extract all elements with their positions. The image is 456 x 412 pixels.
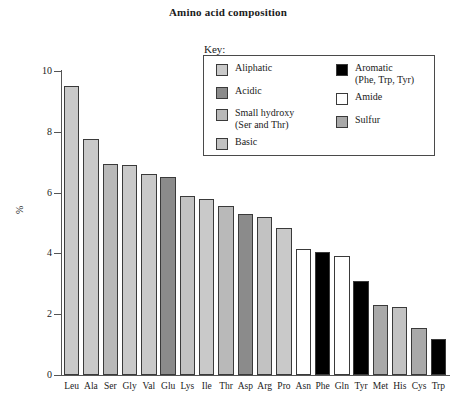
- x-axis-tick-label: Ile: [197, 381, 216, 391]
- x-axis-tick-label: Pro: [274, 381, 293, 391]
- y-axis-tick-label: 6: [12, 188, 52, 198]
- y-axis-tick: [54, 253, 61, 254]
- legend-label: Acidic: [235, 85, 262, 97]
- x-axis-tick-label: Cys: [409, 381, 428, 391]
- legend-swatch-icon: [216, 87, 228, 99]
- legend-label: Aromatic (Phe, Trp, Tyr): [355, 62, 414, 85]
- x-axis-tick-labels: LeuAlaSerGlyValGluLysIleThrAspArgProAsnP…: [62, 381, 452, 401]
- bar-ser: [103, 164, 118, 375]
- x-axis-tick-label: Gly: [120, 381, 139, 391]
- bar-ile: [199, 199, 214, 375]
- legend-label: Aliphatic: [235, 62, 272, 74]
- legend-swatch-icon: [216, 109, 228, 121]
- y-axis-tick-label: 8: [12, 127, 52, 137]
- bar-gly: [122, 165, 137, 375]
- legend-swatch-icon: [216, 138, 228, 150]
- legend-swatch-icon: [336, 93, 348, 105]
- x-axis-tick-label: Val: [139, 381, 158, 391]
- bar-tyr: [353, 281, 368, 375]
- x-axis-tick-label: Gln: [332, 381, 351, 391]
- x-axis-tick-label: Phe: [313, 381, 332, 391]
- x-axis-tick-label: His: [390, 381, 409, 391]
- x-axis-tick-label: Thr: [216, 381, 235, 391]
- x-axis-tick-label: Met: [371, 381, 390, 391]
- bar-thr: [218, 206, 233, 375]
- y-axis-tick: [54, 132, 61, 133]
- y-axis-tick-label: 4: [12, 248, 52, 258]
- x-axis-tick-label: Ser: [101, 381, 120, 391]
- legend-label: Amide: [355, 91, 382, 103]
- legend-swatch-icon: [336, 64, 348, 76]
- x-axis-tick-label: Trp: [429, 381, 448, 391]
- x-axis-tick-label: Glu: [159, 381, 178, 391]
- bar-pro: [276, 228, 291, 375]
- bar-trp: [431, 339, 446, 375]
- bar-lys: [180, 196, 195, 375]
- page-title: Amino acid composition: [0, 6, 456, 18]
- y-axis-tick: [54, 193, 61, 194]
- legend-label: Basic: [235, 136, 257, 148]
- bar-met: [373, 305, 388, 375]
- x-axis-tick-label: Ala: [81, 381, 100, 391]
- bar-asp: [238, 214, 253, 375]
- bar-his: [392, 307, 407, 375]
- bar-arg: [257, 217, 272, 375]
- x-axis-tick-label: Tyr: [352, 381, 371, 391]
- y-axis-tick: [54, 375, 61, 376]
- legend-swatch-icon: [216, 64, 228, 76]
- bar-glu: [160, 177, 175, 375]
- legend-box: AliphaticAcidicSmall hydroxy (Ser and Th…: [203, 55, 435, 156]
- bar-cys: [411, 328, 426, 375]
- x-axis-line: [61, 375, 450, 376]
- y-axis-tick-label: 0: [12, 370, 52, 380]
- bar-val: [141, 174, 156, 375]
- legend-key-label: Key:: [204, 43, 225, 55]
- y-axis-title: %: [14, 206, 25, 214]
- bar-ala: [83, 139, 98, 375]
- bar-phe: [315, 252, 330, 375]
- y-axis-tick: [54, 71, 61, 72]
- y-axis-tick-label: 2: [12, 309, 52, 319]
- legend-swatch-icon: [336, 116, 348, 128]
- x-axis-tick-label: Leu: [62, 381, 81, 391]
- bar-gln: [334, 256, 349, 375]
- x-axis-tick-label: Arg: [255, 381, 274, 391]
- bar-leu: [64, 86, 79, 375]
- x-axis-tick-label: Asn: [294, 381, 313, 391]
- bar-asn: [296, 249, 311, 375]
- x-axis-tick-label: Asp: [236, 381, 255, 391]
- x-axis-tick-label: Lys: [178, 381, 197, 391]
- y-axis-tick: [54, 314, 61, 315]
- legend-label: Small hydroxy (Ser and Thr): [235, 107, 294, 130]
- y-axis-tick-label: 10: [12, 66, 52, 76]
- legend-label: Sulfur: [355, 114, 380, 126]
